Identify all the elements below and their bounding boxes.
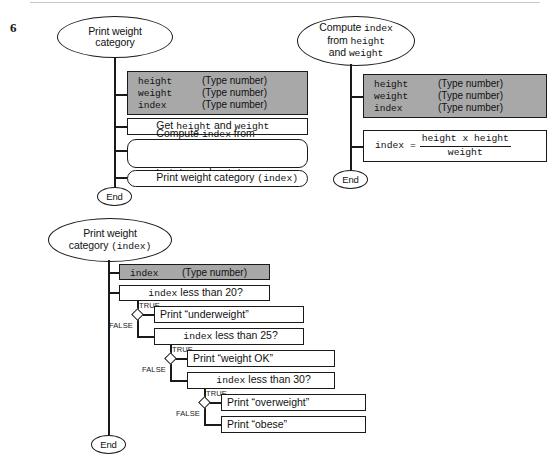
declaration-row: height (Type number)	[128, 75, 307, 87]
formula-numerator: height x height	[420, 133, 511, 147]
chart1-stub-print	[114, 177, 128, 179]
terminator-text-part: Compute	[319, 21, 364, 33]
chart3-main-spine	[108, 260, 110, 436]
declaration-name: index	[364, 103, 438, 116]
end-terminator-label: End	[106, 192, 123, 202]
start-terminator-chart2: Compute index from height and weight	[297, 16, 415, 66]
terminator-text-var: index	[364, 23, 393, 34]
decision-text-var: index	[216, 375, 245, 386]
chart2-spine	[350, 64, 352, 171]
start-terminator-chart3: Print weight category (index)	[48, 218, 172, 262]
formula-fraction: height x height weight	[420, 133, 511, 159]
chart2-stub-declaration	[350, 96, 364, 98]
terminator-text-part: category	[69, 239, 111, 251]
end-terminator-chart1: End	[97, 187, 132, 206]
declaration-box-chart2: height (Type number) weight (Type number…	[363, 74, 547, 118]
declaration-type: (Type number)	[202, 87, 267, 100]
chart1-stub-compute	[114, 150, 128, 152]
start-terminator-chart2-line3: and weight	[319, 47, 392, 60]
page-top-rule	[30, 2, 540, 3]
decision-text-part: less than 25?	[212, 329, 277, 341]
process-box-print-weight-category: Print weight category (index)	[127, 170, 308, 187]
process-box-index-formula: index = height x height weight	[363, 130, 547, 162]
start-terminator-chart3-line2: category (index)	[69, 240, 151, 253]
declaration-type: (Type number)	[438, 102, 503, 115]
start-terminator-chart1-line2: category	[88, 37, 142, 49]
declaration-type: (Type number)	[438, 78, 503, 91]
formula-denominator: weight	[448, 147, 483, 160]
declaration-row: index (Type number)	[364, 102, 546, 114]
process-box-print-overweight: Print “overweight”	[221, 394, 366, 411]
terminator-text-var: (index)	[111, 241, 151, 252]
process-text: Print “obese”	[227, 418, 360, 431]
process-text: Print weight category (index)	[133, 159, 302, 199]
page-number: 6	[10, 21, 17, 35]
declaration-row: height (Type number)	[364, 78, 546, 90]
process-box-print-obese: Print “obese”	[221, 416, 366, 433]
chart2-stub-formula	[350, 146, 364, 148]
chart1-stub-declaration	[114, 94, 128, 96]
terminator-text-var: height	[351, 36, 385, 47]
chart3-stub-false-2	[170, 380, 188, 382]
branch-label-false-1: FALSE	[109, 322, 133, 330]
decision-text-var: index	[183, 331, 212, 342]
decision-text-part: less than 20?	[177, 286, 242, 298]
process-text-part: Print weight category	[156, 171, 257, 183]
chart3-stub-false-3	[204, 424, 222, 426]
process-text: Print “overweight”	[227, 396, 360, 409]
decision-box-index-less-than-25: index less than 25?	[154, 328, 304, 345]
process-text-part: Compute	[156, 127, 202, 139]
index-formula: index = height x height weight	[369, 133, 541, 159]
start-terminator-chart1: Print weight category	[57, 16, 173, 58]
terminator-text-part: and	[329, 46, 349, 58]
process-text-line1: Compute index from	[133, 114, 302, 154]
chart1-stub-get	[114, 126, 128, 128]
process-text-part: from	[231, 127, 255, 139]
process-text-var: index	[202, 129, 231, 140]
decision-box-index-less-than-20: index less than 20?	[119, 285, 270, 301]
flowchart-page: 6 Print weight category height (Type num…	[0, 0, 557, 467]
decision-box-index-less-than-30: index less than 30?	[187, 372, 335, 389]
formula-lhs: index =	[375, 140, 416, 153]
end-terminator-chart3: End	[91, 435, 126, 454]
process-text-var: (index)	[257, 173, 298, 184]
declaration-type: (Type number)	[438, 90, 503, 103]
terminator-text-part: from	[327, 34, 350, 46]
terminator-text-var: weight	[349, 48, 383, 59]
declaration-row: weight (Type number)	[128, 87, 307, 99]
branch-label-false-3: FALSE	[176, 410, 200, 418]
end-terminator-label: End	[342, 175, 359, 185]
declaration-type: (Type number)	[202, 75, 267, 88]
end-terminator-chart2: End	[333, 170, 368, 189]
end-terminator-label: End	[100, 440, 117, 450]
chart3-stub-false-1	[137, 336, 155, 338]
declaration-row: weight (Type number)	[364, 90, 546, 102]
chart1-spine	[114, 57, 116, 188]
branch-label-false-2: FALSE	[142, 366, 166, 374]
decision-text-part: less than 30?	[245, 373, 310, 385]
decision-text-var: index	[148, 288, 177, 299]
